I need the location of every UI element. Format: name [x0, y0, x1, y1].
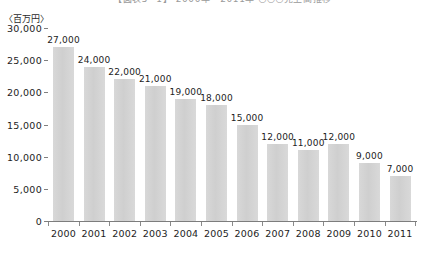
bar	[53, 47, 74, 221]
bar-chart: 30,00025,00020,00015,00010,0005,0000 200…	[0, 0, 422, 259]
y-axis-tick-mark	[44, 60, 48, 61]
y-axis-tick-mark	[44, 125, 48, 126]
y-axis-tick-label: 5,000	[0, 183, 42, 194]
x-axis-tick-mark	[323, 222, 324, 226]
bar-value-label: 9,000	[350, 151, 390, 161]
bar	[328, 144, 349, 221]
y-axis-tick-label: 30,000	[0, 23, 42, 34]
x-axis-tick-mark	[232, 222, 233, 226]
bar	[84, 67, 105, 221]
bar	[175, 99, 196, 221]
bar	[237, 125, 258, 222]
y-axis-tick-label: 20,000	[0, 87, 42, 98]
bar-value-label: 27,000	[44, 35, 84, 45]
bar	[359, 163, 380, 221]
x-axis-tick-mark	[170, 222, 171, 226]
x-axis-tick-mark	[79, 222, 80, 226]
bar-value-label: 21,000	[135, 74, 175, 84]
x-axis-tick-mark	[354, 222, 355, 226]
bar	[298, 150, 319, 221]
bar	[114, 79, 135, 221]
x-axis-tick-mark	[48, 222, 49, 226]
y-axis-tick-label: 10,000	[0, 151, 42, 162]
y-axis-tick-mark	[44, 28, 48, 29]
y-axis-tick-label: 15,000	[0, 119, 42, 130]
bar	[390, 176, 411, 221]
bar-value-label: 24,000	[74, 55, 114, 65]
x-axis-tick-mark	[415, 222, 416, 226]
bar-value-label: 18,000	[197, 93, 237, 103]
bar	[145, 86, 166, 221]
x-axis-baseline	[45, 221, 417, 222]
y-axis-tick-mark	[44, 92, 48, 93]
x-axis-tick-label: 2011	[380, 228, 420, 239]
y-axis-tick-label: 25,000	[0, 55, 42, 66]
x-axis-tick-mark	[262, 222, 263, 226]
y-axis-tick-label: 0	[0, 216, 42, 227]
bar	[267, 144, 288, 221]
bar-value-label: 12,000	[319, 132, 359, 142]
x-axis-tick-mark	[293, 222, 294, 226]
bar-value-label: 15,000	[227, 113, 267, 123]
x-axis-tick-mark	[201, 222, 202, 226]
y-axis-tick-mark	[44, 189, 48, 190]
x-axis-tick-mark	[385, 222, 386, 226]
bar	[206, 105, 227, 221]
bar-value-label: 7,000	[380, 164, 420, 174]
x-axis-tick-mark	[109, 222, 110, 226]
y-axis-tick-mark	[44, 157, 48, 158]
x-axis-tick-mark	[140, 222, 141, 226]
